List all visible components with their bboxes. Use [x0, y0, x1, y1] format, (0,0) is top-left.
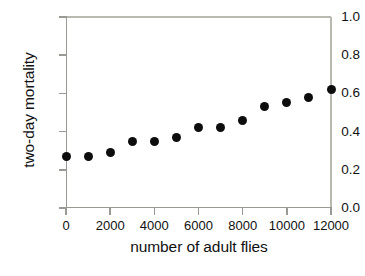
- y-tick-label: 0.8: [308, 48, 360, 62]
- y-tick-mark: [59, 131, 67, 133]
- x-tick-mark: [198, 207, 200, 215]
- x-tick-label: 12000: [291, 219, 365, 232]
- data-point: [327, 85, 336, 94]
- x-tick-mark: [65, 207, 67, 215]
- y-tick-mark: [59, 54, 67, 56]
- x-tick-mark: [154, 207, 156, 215]
- y-axis-label: two-day mortality: [14, 5, 44, 215]
- data-point: [106, 148, 115, 157]
- plot-area: [66, 17, 331, 208]
- y-tick-label: 0.0: [308, 201, 360, 215]
- data-point: [128, 137, 137, 146]
- x-axis-label: number of adult flies: [66, 238, 332, 256]
- y-tick-mark: [59, 93, 67, 95]
- y-tick-mark: [59, 16, 67, 18]
- data-point: [84, 152, 93, 161]
- x-tick-mark: [330, 207, 332, 215]
- figure-caption: [0, 266, 360, 276]
- y-tick-label: 1.0: [308, 10, 360, 24]
- x-tick-mark: [109, 207, 111, 215]
- y-tick-mark: [59, 169, 67, 171]
- data-point: [150, 137, 159, 146]
- x-tick-mark: [286, 207, 288, 215]
- data-point: [238, 116, 247, 125]
- data-point: [172, 133, 181, 142]
- x-tick-mark: [242, 207, 244, 215]
- y-tick-label: 0.2: [308, 163, 360, 177]
- data-point: [62, 152, 71, 161]
- y-tick-label: 0.4: [308, 125, 360, 139]
